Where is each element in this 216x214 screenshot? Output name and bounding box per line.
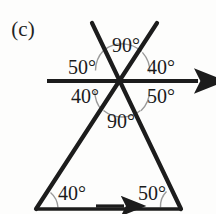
angle-label-upper-right: 40°	[147, 56, 175, 79]
geometry-figure: (c) 90° 50° 40° 40° 50° 90° 40° 50°	[0, 0, 216, 214]
arc-base-left	[51, 193, 59, 208]
angle-label-upper-left: 50°	[68, 56, 96, 79]
angle-label-lower-left: 40°	[71, 85, 99, 108]
angle-label-vertical-bottom: 90°	[107, 110, 135, 133]
angle-label-base-left: 40°	[58, 182, 86, 205]
arc-upper-left	[96, 51, 104, 71]
angle-label-base-right: 50°	[138, 182, 166, 205]
angle-label-vertical-top: 90°	[112, 34, 140, 57]
angle-label-lower-right: 50°	[147, 85, 175, 108]
part-label: (c)	[11, 17, 34, 42]
